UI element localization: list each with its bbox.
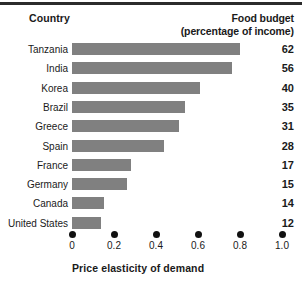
food-budget-value: 12 [254,217,294,230]
food-budget-heading-line1: Food budget [181,12,294,25]
food-budget-value: 31 [254,120,294,133]
elasticity-bar [72,101,185,113]
food-budget-value: 28 [254,140,294,153]
country-label: France [0,159,68,172]
tick-dot-icon [69,231,76,238]
food-budget-value: 40 [254,82,294,95]
country-label: Tanzania [0,43,68,56]
x-axis-tick-label: 1.0 [267,240,297,252]
food-budget-value: 62 [254,43,294,56]
elasticity-bar [72,62,232,74]
country-label: Germany [0,178,68,191]
country-label: Korea [0,82,68,95]
food-budget-value: 56 [254,62,294,75]
country-label: Greece [0,120,68,133]
x-axis-tick-label: 0.8 [225,240,255,252]
x-axis-tick-label: 0.4 [141,240,171,252]
chart-row: Korea40 [0,80,302,99]
x-axis-tick: 0.8 [225,231,255,252]
elasticity-bar [72,217,101,229]
x-axis-tick-label: 0.6 [183,240,213,252]
elasticity-bar [72,197,104,209]
x-axis-tick-label: 0 [57,240,87,252]
food-budget-value: 17 [254,159,294,172]
food-budget-column-heading: Food budget (percentage of income) [181,12,294,38]
bar-chart-plot: Tanzania62India56Korea40Brazil35Greece31… [0,41,302,235]
elasticity-bar [72,140,164,152]
elasticity-bar [72,159,131,171]
food-budget-value: 14 [254,197,294,210]
chart-row: France17 [0,157,302,176]
country-column-heading: Country [29,12,70,24]
elasticity-bar [72,120,179,132]
elasticity-bar [72,178,127,190]
chart-header: Country Food budget (percentage of incom… [0,10,302,40]
chart-row: Canada14 [0,195,302,214]
top-divider [0,2,302,5]
food-budget-value: 15 [254,178,294,191]
x-axis-tick-label: 0.2 [99,240,129,252]
country-label: United States [0,217,68,230]
x-axis-tick: 0.6 [183,231,213,252]
x-axis-tick: 0 [57,231,87,252]
country-label: Canada [0,197,68,210]
chart-row: Tanzania62 [0,41,302,60]
x-axis-title: Price elasticity of demand [72,262,204,274]
chart-row: India56 [0,60,302,79]
tick-dot-icon [279,231,286,238]
food-budget-heading-line2: (percentage of income) [181,25,294,38]
x-axis-tick: 0.4 [141,231,171,252]
elasticity-bar [72,43,240,55]
chart-row: Germany15 [0,176,302,195]
chart-row: Brazil35 [0,99,302,118]
tick-dot-icon [111,231,118,238]
x-axis: 00.20.40.60.81.0 [0,231,302,261]
tick-dot-icon [153,231,160,238]
country-label: Brazil [0,101,68,114]
tick-dot-icon [237,231,244,238]
x-axis-tick: 0.2 [99,231,129,252]
chart-row: Greece31 [0,118,302,137]
elasticity-bar [72,82,200,94]
chart-row: Spain28 [0,138,302,157]
tick-dot-icon [195,231,202,238]
x-axis-tick: 1.0 [267,231,297,252]
country-label: India [0,62,68,75]
country-label: Spain [0,140,68,153]
food-budget-value: 35 [254,101,294,114]
